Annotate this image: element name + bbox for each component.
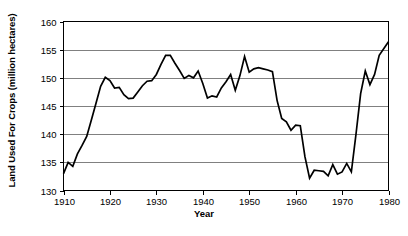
y-tick-label-160: 160 [41, 17, 57, 28]
x-tick-label-1950: 1950 [239, 196, 260, 207]
x-axis-title: Year [0, 208, 408, 219]
x-tick-labels-group: 19101920193019401950196019701980 [54, 196, 400, 207]
x-tick-label-1910: 1910 [54, 196, 75, 207]
x-tick-label-1920: 1920 [100, 196, 121, 207]
x-tick-label-1930: 1930 [146, 196, 167, 207]
x-axis-title-label: Year [194, 208, 214, 219]
gridlines-group [64, 51, 389, 163]
y-tick-label-145: 145 [41, 101, 57, 112]
y-tick-label-140: 140 [41, 129, 57, 140]
y-tick-label-150: 150 [41, 73, 57, 84]
x-tick-label-1970: 1970 [332, 196, 353, 207]
tick-marks-group [60, 23, 390, 195]
y-tick-label-135: 135 [41, 157, 57, 168]
x-tick-label-1980: 1980 [379, 196, 400, 207]
chart-plot-area: 130135140145150155160 191019201930194019… [0, 0, 408, 236]
data-series-line [64, 42, 389, 178]
y-tick-label-155: 155 [41, 45, 57, 56]
x-tick-label-1960: 1960 [286, 196, 307, 207]
line-chart-figure: Land Used For Crops (million hectares) 1… [0, 0, 408, 236]
x-tick-label-1940: 1940 [193, 196, 214, 207]
y-tick-labels-group: 130135140145150155160 [41, 17, 57, 197]
